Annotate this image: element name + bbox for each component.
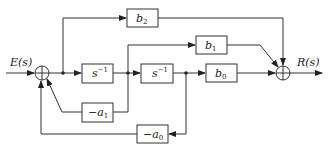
block-neg-a1: −a1 (82, 103, 113, 122)
wire-neg-a1-to-input-sum (47, 79, 82, 112)
output-label: R(s) (296, 56, 320, 69)
block-b0: b0 (206, 64, 237, 82)
block-b2: b2 (127, 9, 158, 27)
wire-to-neg-a1 (113, 73, 128, 112)
block-diagram: E(s) b2 s−1 b1 −a1 s−1 (0, 0, 331, 151)
block-b1: b1 (196, 36, 227, 54)
input-summing-junction (35, 66, 49, 80)
block-integrator-2: s−1 (141, 64, 173, 83)
block-neg-a0: −a0 (137, 125, 168, 143)
block-integrator-1: s−1 (82, 64, 113, 83)
input-label: E(s) (9, 56, 32, 69)
output-summing-junction (276, 66, 290, 80)
